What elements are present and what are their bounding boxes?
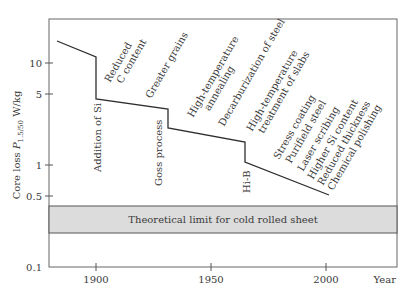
annotation-addition-of-si: Addition of Si — [92, 103, 103, 173]
annotation-greater-grains: Greater grains — [143, 30, 190, 100]
annotation-hi-b: Hi-B — [241, 170, 252, 193]
core-loss-chart: Theoretical limit for cold rolled sheet … — [0, 0, 412, 297]
x-tick-label: 2000 — [313, 274, 338, 285]
x-axis: 1900 1950 2000 Year — [83, 263, 396, 285]
y-tick-label: 0.1 — [26, 262, 42, 273]
x-axis-label: Year — [373, 274, 397, 285]
band-label: Theoretical limit for cold rolled sheet — [128, 214, 317, 225]
y-tick-label: 10 — [29, 58, 42, 69]
y-tick-label: 0.5 — [26, 191, 42, 202]
x-tick-label: 1950 — [198, 274, 223, 285]
y-tick-label: 5 — [36, 89, 42, 100]
y-axis-label: Core loss P1.5/50 W/kg — [11, 90, 25, 199]
annotation-goss-process: Goss process — [153, 120, 164, 186]
annotation-reduced-c-content: Reduced C content — [102, 31, 148, 89]
annotation-list-modern: Stress coating Purifield steel Laser scr… — [271, 92, 383, 192]
svg-text:Greater grains: Greater grains — [143, 30, 190, 100]
x-tick-label: 1900 — [83, 274, 108, 285]
y-tick-label: 1 — [36, 160, 42, 171]
